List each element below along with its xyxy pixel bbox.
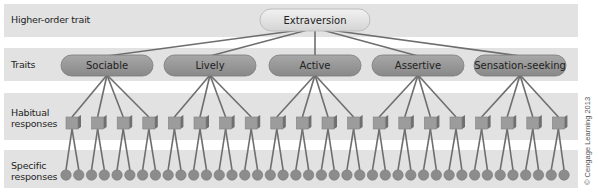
connector-line <box>210 28 315 56</box>
connector-line <box>210 75 251 117</box>
specific-response-node <box>444 170 454 180</box>
habitual-response-node <box>117 117 129 129</box>
specific-response-node <box>99 170 109 180</box>
habitual-node-side <box>257 115 260 129</box>
specific-response-node <box>265 170 275 180</box>
connector-line <box>551 129 558 170</box>
specific-response-node <box>125 170 135 180</box>
connector-line <box>507 129 513 170</box>
habitual-node-side <box>308 115 311 129</box>
connector-line <box>149 129 156 170</box>
connector-line <box>354 129 360 170</box>
specific-response-node <box>112 170 122 180</box>
specific-response-node <box>86 170 96 180</box>
connector-line <box>277 129 283 170</box>
trait-label: Sociable <box>86 60 128 71</box>
specific-response-node <box>431 170 441 180</box>
habitual-response-node <box>476 117 488 129</box>
connector-line <box>107 75 149 117</box>
connector-line <box>456 129 462 170</box>
connector-line <box>347 129 354 170</box>
specific-response-node <box>406 170 416 180</box>
habitual-node-side <box>564 115 567 129</box>
connector-line <box>117 129 123 170</box>
specific-response-node <box>521 170 531 180</box>
habitual-response-node <box>527 117 539 129</box>
habitual-node-side <box>283 115 286 129</box>
specific-response-node <box>189 170 199 180</box>
specific-response-node <box>163 170 173 180</box>
specific-response-node <box>469 170 479 180</box>
connector-line <box>98 129 105 170</box>
connector-line <box>226 129 232 170</box>
habitual-node-side <box>155 115 158 129</box>
connector-line <box>302 129 308 170</box>
habitual-response-node <box>424 117 436 129</box>
connector-line <box>143 129 149 170</box>
trait-label: Active <box>300 60 331 71</box>
connector-line <box>92 129 98 170</box>
habitual-response-node <box>373 117 385 129</box>
habitual-response-node <box>245 117 257 129</box>
habitual-node-side <box>232 115 235 129</box>
specific-response-node <box>61 170 71 180</box>
trait-label: Sensation-seeking <box>474 60 566 71</box>
habitual-response-node <box>66 117 78 129</box>
specific-response-node <box>74 170 84 180</box>
connector-line <box>107 28 315 56</box>
connector-line <box>500 129 507 170</box>
habitual-response-node <box>348 117 360 129</box>
specific-response-node <box>418 170 428 180</box>
connector-line <box>424 129 431 170</box>
copyright-credit: © Cengage Learning 2013 <box>583 97 592 185</box>
connector-line <box>72 129 79 170</box>
specific-response-node <box>482 170 492 180</box>
habitual-response-node <box>322 117 334 129</box>
connector-line <box>194 129 200 170</box>
connector-line <box>66 129 72 170</box>
habitual-node-side <box>385 115 388 129</box>
habitual-node-side <box>539 115 542 129</box>
connector-line <box>526 129 533 170</box>
connector-line <box>482 129 488 170</box>
connector-line <box>372 129 379 170</box>
specific-response-node <box>559 170 569 180</box>
specific-response-node <box>316 170 326 180</box>
connector-line <box>430 129 436 170</box>
specific-response-node <box>355 170 365 180</box>
specific-response-node <box>367 170 377 180</box>
trait-label: Assertive <box>395 60 441 71</box>
specific-response-node <box>227 170 237 180</box>
habitual-response-node <box>501 117 513 129</box>
connector-line <box>210 75 226 117</box>
connector-line <box>321 129 328 170</box>
specific-response-node <box>150 170 160 180</box>
habitual-node-side <box>436 115 439 129</box>
connector-lines <box>66 28 564 170</box>
connector-line <box>245 129 251 170</box>
habitual-node-side <box>360 115 363 129</box>
connector-line <box>251 129 257 170</box>
specific-response-node <box>393 170 403 180</box>
connector-line <box>200 129 206 170</box>
habitual-response-node <box>271 117 283 129</box>
connector-line <box>270 129 276 170</box>
connector-line <box>449 129 456 170</box>
habitual-response-node <box>552 117 564 129</box>
specific-response-node <box>252 170 262 180</box>
connector-line <box>296 129 303 170</box>
specific-response-node <box>533 170 543 180</box>
habitual-response-node <box>399 117 411 129</box>
habitual-node-side <box>488 115 491 129</box>
habitual-response-node <box>168 117 180 129</box>
habitual-response-node <box>143 117 155 129</box>
specific-response-node <box>240 170 250 180</box>
specific-response-node <box>176 170 186 180</box>
habitual-node-side <box>78 115 81 129</box>
connector-line <box>398 129 405 170</box>
habitual-node-side <box>334 115 337 129</box>
specific-response-node <box>495 170 505 180</box>
higher-order-trait-label: Extraversion <box>283 15 346 26</box>
connector-line <box>315 28 418 56</box>
specific-response-node <box>201 170 211 180</box>
